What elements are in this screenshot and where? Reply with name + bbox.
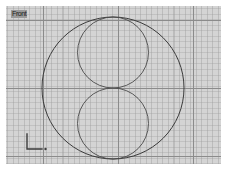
grid-major-horizontal-line: [6, 88, 221, 89]
grid-major-horizontal-line: [6, 20, 221, 21]
grid-major-horizontal-line: [6, 156, 221, 157]
viewport-label[interactable]: Front: [11, 10, 27, 18]
outer-circle[interactable]: [42, 17, 184, 159]
tripod-axes-icon: [27, 134, 42, 149]
tripod-origin-dot: [44, 148, 46, 150]
inner-circle-top[interactable]: [78, 17, 149, 88]
modeling-viewport[interactable]: Front: [6, 6, 221, 164]
app-root: Front: [0, 0, 230, 175]
inner-circle-bottom[interactable]: [78, 88, 149, 159]
grid-major-vertical-line: [193, 6, 194, 164]
footer-strip: [0, 164, 230, 175]
grid-major-vertical-line: [118, 6, 119, 164]
axis-tripod: [24, 132, 50, 156]
